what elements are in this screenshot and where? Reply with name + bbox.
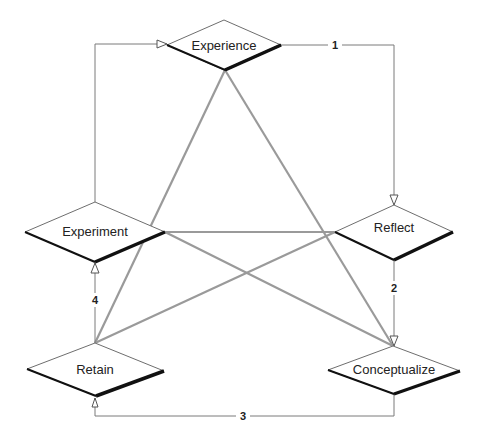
node-retain[interactable]: Retain — [27, 343, 164, 396]
arrowhead-right-icon — [157, 40, 167, 48]
node-conceptualize[interactable]: Conceptualize — [328, 346, 460, 394]
node-label-retain: Retain — [76, 362, 114, 377]
arrowhead-down-icon — [390, 195, 398, 205]
node-label-experiment: Experiment — [62, 224, 128, 239]
node-label-reflect: Reflect — [374, 220, 415, 235]
edge-5-experiment-to-experience — [95, 44, 167, 202]
node-experience[interactable]: Experience — [167, 20, 281, 70]
arrowhead-up-icon — [92, 398, 98, 407]
edge-label-3: 3 — [240, 410, 246, 422]
node-label-conceptualize: Conceptualize — [353, 362, 435, 377]
learning-cycle-diagram: 1 2 3 4 Experience Reflect Conceptualize… — [0, 0, 484, 444]
arrowhead-up-icon — [91, 263, 99, 273]
node-experiment[interactable]: Experiment — [25, 202, 165, 262]
node-reflect[interactable]: Reflect — [335, 205, 453, 260]
cross-link-experience-retain — [95, 70, 225, 343]
edge-label-2: 2 — [391, 282, 397, 294]
edge-1-experience-to-reflect — [281, 45, 394, 205]
cross-links — [95, 70, 393, 346]
cross-link-retain-reflect — [95, 232, 335, 343]
edge-label-4: 4 — [92, 294, 99, 306]
node-label-experience: Experience — [191, 38, 256, 53]
edge-label-1: 1 — [332, 39, 338, 51]
